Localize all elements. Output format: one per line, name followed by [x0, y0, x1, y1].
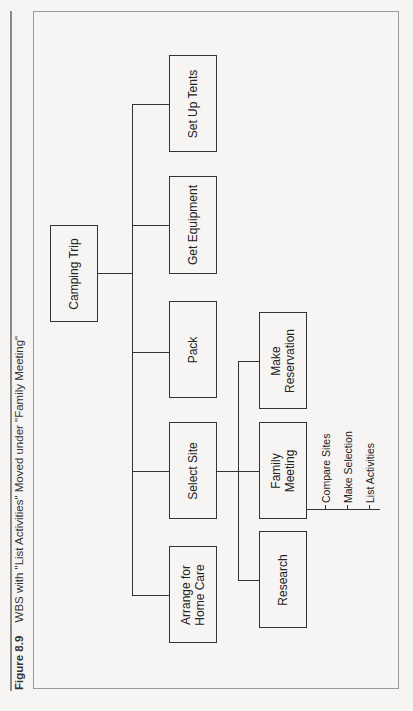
- connector-get-equipment: [132, 225, 169, 226]
- connector-set-up-tents: [132, 104, 169, 105]
- connector-family-meeting: [238, 471, 259, 472]
- node-label: Select Site: [186, 442, 200, 499]
- connector-pack: [132, 352, 169, 353]
- node-select-site: Select Site: [169, 422, 217, 519]
- connector-select-site: [132, 471, 169, 472]
- node-label: Camping Trip: [67, 238, 81, 309]
- node-family-meeting: Family Meeting: [259, 422, 307, 519]
- node-label: Pack: [186, 336, 200, 363]
- leaf-list-activities: List Activities: [364, 443, 376, 503]
- node-get-equipment: Get Equipment: [169, 176, 217, 274]
- node-pack: Pack: [169, 301, 217, 398]
- node-label: Family Meeting: [269, 449, 297, 492]
- node-label: Get Equipment: [186, 185, 200, 265]
- figure-caption: Figure 8.9 WBS with "List Activities" Mo…: [8, 10, 30, 690]
- figure-title: WBS with "List Activities" Moved under "…: [13, 336, 25, 623]
- tick-compare-sites: [325, 505, 326, 509]
- node-make-reservation: Make Reservation: [259, 312, 307, 409]
- connector-trunk: [132, 104, 133, 596]
- tick-make-selection: [347, 505, 348, 509]
- leaf-compare-sites: Compare Sites: [320, 434, 332, 503]
- connector-family-meeting-leaves: [307, 509, 380, 510]
- connector-research: [238, 580, 259, 581]
- connector-select-site-out: [217, 471, 238, 472]
- connector-make-reservation: [238, 361, 259, 362]
- node-label: Research: [276, 554, 290, 605]
- leaf-make-selection: Make Selection: [342, 431, 354, 503]
- tick-list-activities: [369, 505, 370, 509]
- node-camping-trip: Camping Trip: [50, 225, 98, 322]
- node-label: Set Up Tents: [186, 69, 200, 137]
- connector-root: [98, 273, 132, 274]
- node-label: Arrange for Home Care: [179, 564, 207, 625]
- node-label: Make Reservation: [269, 328, 297, 392]
- node-arrange-home-care: Arrange for Home Care: [169, 546, 217, 643]
- node-set-up-tents: Set Up Tents: [169, 55, 217, 152]
- node-research: Research: [259, 531, 307, 628]
- connector-arrange-home-care: [132, 595, 169, 596]
- figure-label: Figure 8.9: [13, 636, 25, 690]
